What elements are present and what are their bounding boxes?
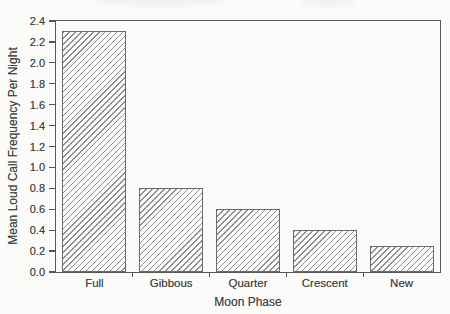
y-tick-label: 0.6 [7, 203, 45, 215]
y-tick-mark [49, 230, 55, 231]
scan-artifact [95, 0, 225, 6]
y-tick-label: 0.0 [7, 266, 45, 278]
y-tick-label: 1.4 [7, 120, 45, 132]
x-tick-mark [286, 272, 287, 277]
y-tick-mark [49, 188, 55, 189]
x-tick-mark [363, 272, 364, 277]
plot-area: 0.00.20.40.60.81.01.21.41.61.82.02.22.4F… [55, 20, 441, 273]
y-tick-mark [49, 271, 55, 272]
y-tick-label: 2.4 [7, 15, 45, 27]
y-tick-mark [49, 167, 55, 168]
bar-full [62, 31, 126, 272]
y-tick-mark [49, 20, 55, 21]
scan-artifact [300, 0, 355, 6]
y-tick-label: 1.2 [7, 141, 45, 153]
x-tick-label-full: Full [85, 277, 104, 289]
y-tick-mark [49, 209, 55, 210]
y-tick-label: 0.2 [7, 245, 45, 257]
y-tick-mark [49, 250, 55, 251]
x-tick-label-crescent: Crescent [302, 277, 348, 289]
x-tick-mark [209, 272, 210, 277]
y-tick-mark [49, 83, 55, 84]
y-tick-label: 2.2 [7, 36, 45, 48]
y-tick-mark [49, 125, 55, 126]
y-tick-mark [49, 146, 55, 147]
x-tick-label-gibbous: Gibbous [150, 277, 193, 289]
x-tick-label-new: New [390, 277, 413, 289]
y-tick-label: 0.8 [7, 182, 45, 194]
bar-chart-figure: Mean Loud Call Frequency Per Night 0.00.… [0, 0, 450, 314]
y-tick-mark [49, 41, 55, 42]
y-tick-label: 1.8 [7, 78, 45, 90]
y-tick-label: 1.0 [7, 161, 45, 173]
y-tick-mark [49, 62, 55, 63]
bar-gibbous [139, 188, 203, 272]
x-axis-title: Moon Phase [214, 295, 281, 309]
bar-new [370, 246, 434, 272]
y-tick-label: 0.4 [7, 224, 45, 236]
bar-crescent [293, 230, 357, 272]
bar-quarter [216, 209, 280, 272]
y-tick-label: 2.0 [7, 57, 45, 69]
y-tick-mark [49, 104, 55, 105]
x-tick-mark [132, 272, 133, 277]
y-tick-label: 1.6 [7, 99, 45, 111]
x-tick-label-quarter: Quarter [229, 277, 268, 289]
